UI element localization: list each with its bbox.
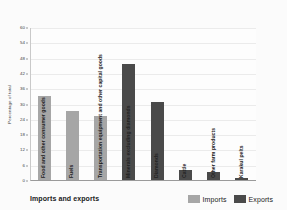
bar-group: Food and other consumer goods bbox=[38, 27, 51, 180]
y-axis-tick-12: 12 bbox=[20, 148, 25, 152]
gridline bbox=[31, 135, 256, 136]
bar[interactable] bbox=[207, 172, 220, 180]
plot-area: Food and other consumer goodsFuelsTransp… bbox=[30, 28, 256, 181]
y-axis-tick-0: 0 bbox=[22, 179, 25, 183]
y-axis-tick-6: 6 bbox=[22, 163, 25, 167]
y-axis-tick-mark bbox=[26, 58, 28, 59]
y-axis-tick-60: 60 bbox=[20, 26, 25, 30]
y-axis-tick-54: 54 bbox=[20, 41, 25, 45]
y-axis-tick-36: 36 bbox=[20, 87, 25, 91]
y-axis-tick-mark bbox=[26, 73, 28, 74]
y-axis-tick-30: 30 bbox=[20, 102, 25, 106]
y-axis-tick-mark bbox=[26, 43, 28, 44]
gridline bbox=[31, 89, 256, 90]
gridline bbox=[31, 43, 256, 44]
bar[interactable] bbox=[151, 102, 164, 180]
legend-item-imports[interactable]: Imports bbox=[188, 195, 227, 203]
y-axis-tick-mark bbox=[26, 104, 28, 105]
bar-group: Transportation equipment and other capit… bbox=[94, 27, 107, 180]
bar[interactable] bbox=[122, 64, 135, 180]
bar-group: Cattle bbox=[179, 27, 192, 180]
legend-swatch-icon bbox=[188, 195, 200, 203]
chart-title: Imports and exports bbox=[30, 195, 99, 202]
gridline bbox=[31, 105, 256, 106]
gridline bbox=[31, 28, 256, 29]
y-axis-tick-42: 42 bbox=[20, 72, 25, 76]
gridline bbox=[31, 120, 256, 121]
gridline bbox=[31, 74, 256, 75]
legend-swatch-icon bbox=[234, 195, 246, 203]
bar-group: Minerals excluding diamonds bbox=[122, 27, 135, 180]
bar[interactable] bbox=[66, 111, 79, 180]
chart-legend: ImportsExports bbox=[188, 195, 273, 203]
y-axis-tick-mark bbox=[26, 28, 28, 29]
y-axis-tick-48: 48 bbox=[20, 56, 25, 60]
bar-group: Other farm products bbox=[207, 27, 220, 180]
bar[interactable] bbox=[94, 116, 107, 180]
y-axis-tick-mark bbox=[26, 119, 28, 120]
bar[interactable] bbox=[38, 96, 51, 180]
gridline bbox=[31, 59, 256, 60]
legend-label: Imports bbox=[203, 196, 227, 203]
bar-group: Diamonds bbox=[151, 27, 164, 180]
bar-category-label: Other farm products bbox=[211, 128, 216, 178]
y-axis-tick-mark bbox=[26, 181, 28, 182]
gridline bbox=[31, 150, 256, 151]
bar-category-label: Karakul pelts bbox=[239, 145, 244, 178]
gridline bbox=[31, 166, 256, 167]
y-axis-tick-mark bbox=[26, 89, 28, 90]
bar-group: Fuels bbox=[66, 27, 79, 180]
chart-figure: Percentage of total 06121824303642485460… bbox=[0, 0, 287, 210]
y-axis-tick-mark bbox=[26, 135, 28, 136]
y-axis-tick-mark bbox=[26, 165, 28, 166]
legend-item-exports[interactable]: Exports bbox=[234, 195, 273, 203]
y-axis-tick-24: 24 bbox=[20, 118, 25, 122]
y-axis-tick-labels: 06121824303642485460 bbox=[0, 28, 28, 181]
bar-group: Karakul pelts bbox=[235, 27, 248, 180]
bar[interactable] bbox=[235, 178, 248, 180]
bar[interactable] bbox=[179, 170, 192, 180]
y-axis-tick-mark bbox=[26, 150, 28, 151]
legend-label: Exports bbox=[249, 196, 273, 203]
y-axis-tick-18: 18 bbox=[20, 133, 25, 137]
